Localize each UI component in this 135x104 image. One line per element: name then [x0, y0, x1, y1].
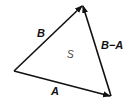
label-b-minus-a: B−A: [101, 39, 123, 51]
vector-triangle-diagram: B A B−A S: [0, 0, 135, 104]
vector-b-arrow: [14, 6, 82, 71]
label-a: A: [50, 85, 59, 97]
vector-b-minus-a-arrow: [83, 6, 111, 96]
label-b: B: [37, 27, 45, 39]
vector-a-arrow: [14, 71, 110, 96]
label-area-s: S: [67, 49, 74, 60]
